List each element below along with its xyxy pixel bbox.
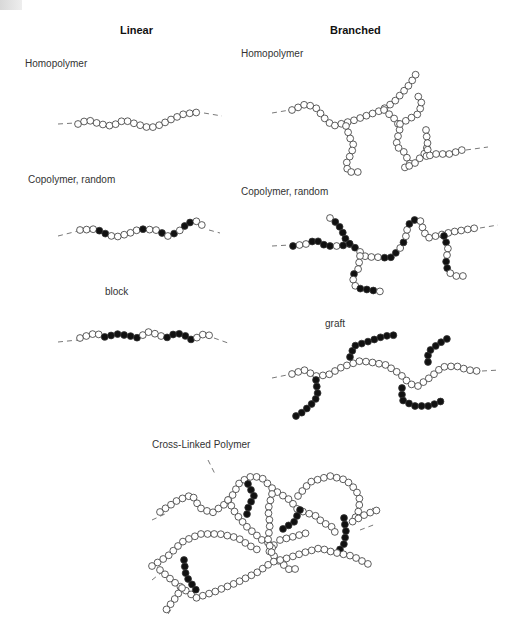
monomer-b [390,332,397,339]
monomer-a [354,169,361,176]
monomer-a [266,523,273,530]
monomer-a [303,241,310,248]
monomer-b [342,534,349,541]
monomer-a [343,159,350,166]
monomer-a [296,532,303,539]
monomer-a [266,530,273,537]
monomer-a [395,133,402,140]
monomer-a [268,549,275,556]
chain-continuation [482,370,500,371]
monomer-a [327,548,334,555]
monomer-a [199,592,206,599]
monomer-a [320,372,327,379]
monomer-a [432,233,439,240]
monomer-a [180,111,187,118]
monomer-a [458,227,465,234]
monomer-a [131,120,138,127]
monomer-b [363,286,370,293]
monomer-b [320,241,327,248]
monomer-a [193,594,200,601]
monomer-b [370,287,377,294]
monomer-a [363,358,370,365]
monomer-a [452,149,459,156]
monomer-b [444,336,451,343]
monomer-a [458,147,465,154]
monomer-a [464,226,471,233]
monomer-a [77,227,84,234]
monomer-a [106,122,113,129]
monomer-a [198,222,205,229]
crosslinked-polymer-network [149,460,380,614]
monomer-b [358,340,365,347]
monomer-a [460,273,467,280]
monomer-a [331,529,338,536]
monomer-a [363,112,370,119]
monomer-b [340,242,347,249]
monomer-b [399,385,406,392]
monomer-a [198,531,205,538]
monomer-a [345,129,352,136]
chain-continuation [208,460,216,476]
monomer-a [289,371,296,378]
monomer-a [334,550,341,557]
monomer-b [425,403,432,410]
monomer-a [292,566,299,573]
monomer-a [121,231,128,238]
monomer-a [408,381,415,388]
monomer-a [308,547,315,554]
monomer-a [433,151,440,158]
chain-continuation [58,340,78,342]
chain-continuation [214,338,228,343]
monomer-a [444,252,451,259]
linear-block-copolymer-chain [58,329,228,343]
monomer-a [315,545,322,552]
monomer-b [127,333,134,340]
monomer-b [313,377,320,384]
monomer-a [211,531,218,538]
monomer-a [179,495,186,502]
monomer-a [453,273,460,280]
monomer-a [204,531,211,538]
monomer-b [437,398,444,405]
chain-continuation [58,123,75,124]
monomer-a [357,253,364,260]
monomer-a [199,331,206,338]
monomer-a [217,531,224,538]
monomer-b [381,254,388,261]
monomer-a [93,120,100,127]
monomer-b [108,332,115,339]
branched-graft-copolymer-chain [272,332,500,420]
monomer-a [369,110,376,117]
monomer-a [348,169,355,176]
monomer-a [295,369,302,376]
monomer-a [87,117,94,124]
monomer-a [376,360,383,367]
monomer-b [352,342,359,349]
monomer-a [283,535,290,542]
monomer-a [427,152,434,159]
monomer-a [100,121,107,128]
monomer-a [150,124,157,131]
monomer-a [206,332,213,339]
monomer-b [443,239,450,246]
chain-continuation [58,231,78,236]
monomer-a [417,218,424,225]
monomer-a [356,259,363,266]
monomer-a [327,473,334,480]
monomer-b [140,226,147,233]
monomer-a [90,226,97,233]
monomer-a [224,532,231,539]
chain-continuation [466,147,488,150]
monomer-a [340,551,347,558]
monomer-a [81,118,88,125]
monomer-a [270,558,277,565]
monomer-a [351,117,358,124]
monomer-a [350,360,357,367]
monomer-a [356,495,363,502]
branched-homopolymer-chain [272,71,488,175]
monomer-a [133,227,140,234]
monomer-a [306,510,313,517]
monomer-a [296,242,303,249]
monomer-b [343,528,350,535]
monomer-a [124,118,131,125]
